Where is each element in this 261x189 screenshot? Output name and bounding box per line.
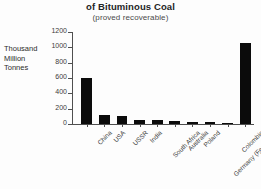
chart-figure: World Reserves of Bituminous Coal (prove… bbox=[0, 0, 261, 189]
y-tick-mark bbox=[68, 32, 72, 33]
y-tick-mark bbox=[68, 109, 72, 110]
y-axis-title-line-1: Thousand bbox=[4, 44, 54, 54]
y-axis-title: Thousand Million Tonnes bbox=[4, 44, 54, 73]
y-tick-label: 800 bbox=[55, 58, 67, 66]
y-tick-label: 1000 bbox=[51, 42, 67, 50]
y-tick-mark bbox=[68, 63, 72, 64]
x-tick-mark bbox=[140, 124, 141, 127]
bar bbox=[99, 115, 110, 124]
bar bbox=[240, 43, 251, 124]
y-tick-label: 400 bbox=[55, 88, 67, 96]
y-tick-label: 600 bbox=[55, 73, 67, 81]
y-tick-label: 1200 bbox=[51, 27, 67, 35]
x-tick-mark bbox=[192, 124, 193, 127]
x-tick-mark bbox=[245, 124, 246, 127]
chart-subtitle: (proved recoverable) bbox=[0, 12, 261, 23]
x-tick-mark bbox=[122, 124, 123, 127]
chart-title-line-2: of Bituminous Coal bbox=[0, 1, 261, 12]
x-tick-mark bbox=[228, 124, 229, 127]
y-tick-mark bbox=[68, 124, 72, 125]
bar bbox=[117, 116, 128, 124]
bar bbox=[81, 78, 92, 124]
x-axis-label: USSR bbox=[131, 129, 149, 147]
y-axis-title-line-3: Tonnes bbox=[4, 63, 54, 73]
x-axis-label: USA bbox=[112, 129, 126, 143]
x-tick-mark bbox=[157, 124, 158, 127]
x-tick-mark bbox=[87, 124, 88, 127]
y-tick-mark bbox=[68, 47, 72, 48]
x-tick-mark bbox=[175, 124, 176, 127]
y-tick-mark bbox=[68, 78, 72, 79]
x-tick-mark bbox=[104, 124, 105, 127]
plot-area: 020040060080010001200 bbox=[72, 32, 254, 124]
y-axis-title-line-2: Million bbox=[4, 54, 54, 64]
chart-title-block: World Reserves of Bituminous Coal (prove… bbox=[0, 0, 261, 23]
y-axis-line bbox=[72, 32, 73, 124]
x-axis-label: India bbox=[148, 129, 163, 144]
y-tick-label: 0 bbox=[63, 119, 67, 127]
y-tick-mark bbox=[68, 93, 72, 94]
x-axis-label: China bbox=[96, 129, 113, 146]
x-tick-mark bbox=[210, 124, 211, 127]
y-tick-label: 200 bbox=[55, 104, 67, 112]
